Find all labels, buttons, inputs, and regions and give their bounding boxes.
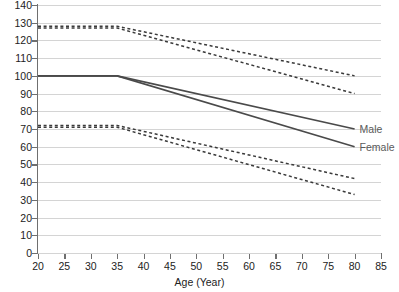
series-label-female: Female	[360, 142, 395, 153]
series-line-male	[38, 76, 355, 129]
series-line-male-upper-band	[38, 26, 355, 76]
series-label-male: Male	[360, 124, 383, 135]
series-line-female	[38, 76, 355, 147]
x-axis-title: Age (Year)	[0, 276, 399, 288]
series-line-female-upper-band	[38, 28, 355, 94]
chart-container: 0102030405060708090100110120130140 20253…	[0, 0, 399, 292]
series-line-male-lower-band	[38, 125, 355, 178]
series-lines	[0, 0, 399, 292]
series-line-female-lower-band	[38, 127, 355, 194]
